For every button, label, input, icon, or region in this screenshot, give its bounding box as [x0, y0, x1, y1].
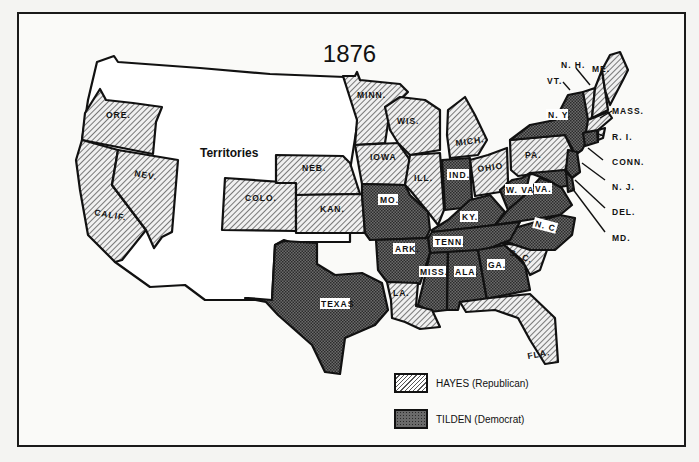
- state-mich[interactable]: [447, 97, 487, 158]
- legend-label-tilden: TILDEN (Democrat): [436, 414, 524, 425]
- election-map-1876: ORE. CALIF. NEV. COLO. NEB. KAN. MINN. I…: [0, 0, 699, 462]
- label-ore: ORE.: [106, 110, 131, 120]
- label-ala: ALA.: [455, 267, 479, 277]
- label-texas: TEXAS: [321, 299, 354, 309]
- label-kan: KAN.: [320, 204, 345, 214]
- label-territories: Territories: [200, 146, 259, 160]
- crosshatched-swatch-icon: [394, 409, 428, 429]
- label-wis: WIS.: [397, 116, 419, 126]
- legend: HAYES (Republican) TILDEN (Democrat): [394, 372, 529, 444]
- label-pa: PA.: [525, 150, 542, 160]
- label-ky: KY.: [462, 212, 478, 222]
- label-la: LA.: [393, 288, 410, 298]
- label-miss: MISS.: [420, 267, 448, 277]
- label-wva: W. VA.: [506, 185, 538, 195]
- hatched-swatch-icon: [394, 373, 428, 393]
- label-neb: NEB.: [302, 163, 326, 173]
- state-iowa[interactable]: [355, 143, 410, 185]
- label-mass: MASS.: [612, 106, 644, 116]
- state-colo[interactable]: [222, 178, 296, 231]
- label-tenn: TENN.: [435, 237, 466, 247]
- label-iowa: IOWA: [370, 152, 397, 162]
- label-minn: MINN.: [357, 90, 386, 100]
- label-mo: MO.: [380, 195, 399, 205]
- label-conn: CONN.: [612, 157, 644, 167]
- label-ri: R. I.: [612, 132, 633, 142]
- label-nj: N. J.: [612, 182, 635, 192]
- label-me: ME.: [592, 64, 610, 74]
- label-ny: N. Y.: [548, 110, 571, 120]
- label-vt: VT.: [547, 76, 562, 86]
- label-del: DEL.: [612, 207, 635, 217]
- legend-label-hayes: HAYES (Republican): [436, 378, 529, 389]
- legend-item-hayes: HAYES (Republican): [394, 372, 529, 394]
- label-ga: GA.: [488, 260, 506, 270]
- legend-item-tilden: TILDEN (Democrat): [394, 408, 529, 430]
- label-ind: IND.: [449, 170, 470, 180]
- label-ark: ARK.: [395, 244, 420, 254]
- label-nh: N. H.: [561, 60, 585, 70]
- label-va: VA.: [535, 184, 552, 194]
- label-colo: COLO.: [245, 193, 277, 203]
- label-md: MD.: [612, 233, 631, 243]
- label-ill: ILL.: [414, 173, 433, 183]
